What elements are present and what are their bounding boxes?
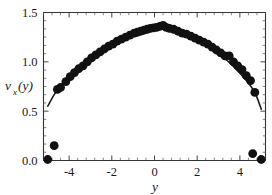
y-axis-label-argument: (y) — [18, 78, 33, 93]
data-point — [248, 149, 257, 158]
y-tick-label: 1.0 — [22, 55, 38, 69]
velocity-profile-chart: -4-2024 0.00.51.01.5 v x (y) y — [0, 0, 272, 195]
x-tick-label: 4 — [237, 165, 244, 179]
y-axis-label-subscript: x — [12, 87, 17, 97]
x-tick-label: -4 — [64, 165, 75, 179]
y-tick-label: 0.5 — [22, 105, 38, 119]
x-tick-label: 2 — [194, 165, 200, 179]
data-point — [246, 76, 255, 85]
x-tick-label: -2 — [107, 165, 117, 179]
data-point — [250, 88, 259, 97]
x-tick-label: 0 — [151, 165, 157, 179]
y-axis-label-base: v — [5, 78, 11, 93]
data-point — [257, 155, 266, 164]
data-point — [50, 141, 59, 150]
x-axis-label: y — [150, 179, 158, 194]
data-point — [43, 155, 52, 164]
y-tick-label: 1.5 — [22, 6, 38, 20]
figure-container: -4-2024 0.00.51.01.5 v x (y) y — [0, 0, 272, 195]
y-tick-label: 0.0 — [22, 154, 38, 168]
